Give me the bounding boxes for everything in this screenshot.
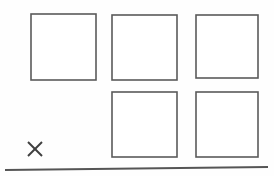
square-row1-col2[interactable] bbox=[112, 15, 177, 80]
square-row1-col3[interactable] bbox=[196, 15, 258, 78]
x-mark-icon[interactable] bbox=[28, 142, 42, 156]
square-row2-col3[interactable] bbox=[196, 92, 258, 157]
square-row1-col1[interactable] bbox=[31, 14, 96, 80]
square-row2-col2[interactable] bbox=[112, 92, 177, 157]
sketch-drawing-surface bbox=[0, 0, 274, 176]
baseline-rule bbox=[5, 167, 268, 170]
sketch-canvas bbox=[0, 0, 274, 176]
